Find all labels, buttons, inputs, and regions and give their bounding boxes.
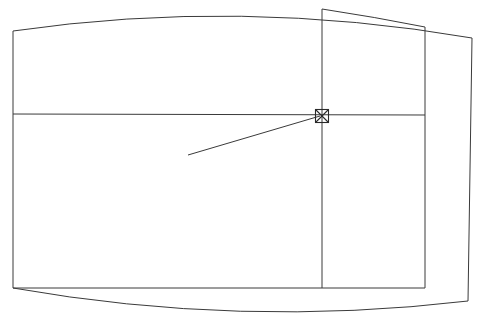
pointer-leader-path — [188, 116, 320, 155]
line-drawing-svg — [0, 0, 481, 329]
drawing-canvas — [0, 0, 481, 329]
outer-bottom-curve-path — [13, 288, 468, 312]
horizontal-divider-path — [13, 114, 425, 115]
outer-shell-group — [13, 16, 472, 312]
inner-panel-group — [13, 9, 425, 288]
outer-right-side-path — [468, 38, 472, 301]
outer-top-curve-path — [13, 16, 472, 38]
